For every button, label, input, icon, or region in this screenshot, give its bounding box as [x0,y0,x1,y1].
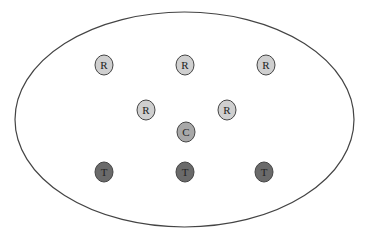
node-t: T [176,162,194,182]
node-label: T [101,166,108,178]
node-c: C [177,122,195,142]
node-label: T [261,166,268,178]
diagram-canvas: RRRRRCTTT [0,0,368,237]
node-label: T [182,166,189,178]
node-t: T [95,162,113,182]
node-r: R [218,100,236,120]
node-label: R [262,59,270,71]
boundary-ellipse [15,12,354,227]
node-label: R [181,59,189,71]
node-label: C [182,126,189,138]
node-label: R [223,104,231,116]
node-r: R [257,55,275,75]
node-t: T [255,162,273,182]
node-r: R [95,55,113,75]
node-r: R [176,55,194,75]
node-label: R [142,104,150,116]
node-r: R [137,100,155,120]
node-label: R [100,59,108,71]
nodes-group: RRRRRCTTT [95,55,275,182]
